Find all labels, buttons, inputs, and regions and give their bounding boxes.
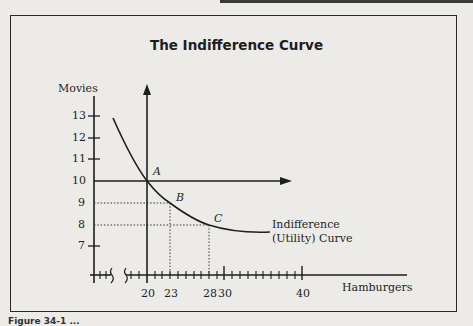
curve-label-line1: Indifference bbox=[272, 218, 340, 231]
y-tick-10: 10 bbox=[72, 174, 86, 187]
y-tick-9: 9 bbox=[78, 196, 85, 209]
curve-label-line2: (Utility) Curve bbox=[272, 232, 352, 245]
point-a-label: A bbox=[153, 165, 161, 178]
axis-break-right bbox=[125, 268, 128, 283]
arrowhead-right bbox=[280, 177, 292, 185]
figure-caption: Figure 34-1 ... bbox=[8, 316, 80, 326]
arrowhead-up bbox=[143, 84, 151, 95]
y-tick-11: 11 bbox=[72, 152, 86, 165]
guide-lines bbox=[94, 203, 209, 275]
y-tick-13: 13 bbox=[72, 109, 86, 122]
chart-plot bbox=[0, 0, 473, 326]
y-axis-label: Movies bbox=[58, 82, 98, 95]
x-tick-20: 20 bbox=[141, 287, 155, 300]
x-tick-23: 23 bbox=[164, 287, 178, 300]
point-c-label: C bbox=[214, 212, 222, 225]
x-tick-30: 30 bbox=[218, 287, 232, 300]
indifference-curve bbox=[113, 118, 270, 232]
x-axis-label: Hamburgers bbox=[342, 281, 412, 294]
point-b-label: B bbox=[176, 191, 184, 204]
y-tick-7: 7 bbox=[78, 239, 85, 252]
y-tick-12: 12 bbox=[72, 131, 86, 144]
x-tick-28: 28 bbox=[203, 287, 217, 300]
x-tick-40: 40 bbox=[296, 287, 310, 300]
y-tick-8: 8 bbox=[78, 218, 85, 231]
